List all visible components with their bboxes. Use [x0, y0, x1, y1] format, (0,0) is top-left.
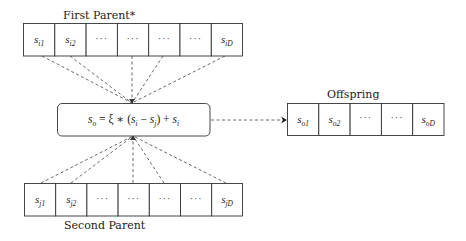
- connector-line: [41, 136, 133, 183]
- ellipsis: ···: [96, 193, 109, 204]
- connector-line: [133, 136, 164, 183]
- second-parent-label: Second Parent: [64, 219, 146, 232]
- first-parent-label: First Parent*: [63, 9, 136, 22]
- ellipsis: ···: [158, 33, 171, 44]
- ellipsis: ···: [189, 33, 202, 44]
- ellipsis: ···: [95, 33, 108, 44]
- arrowhead-icon: [281, 117, 287, 124]
- arrowhead-icon: [129, 99, 135, 104]
- ellipsis: ···: [391, 112, 404, 123]
- ellipsis: ···: [359, 112, 372, 123]
- ellipsis: ···: [158, 193, 171, 204]
- ellipsis: ···: [190, 193, 203, 204]
- offspring-vector: so1 so2 ··· ··· soD: [288, 104, 445, 136]
- second-parent-connectors: [41, 136, 226, 184]
- connector-line: [132, 56, 225, 103]
- connector-line: [132, 56, 163, 103]
- second-parent-vector: sj1 sj2 ··· ··· ··· ··· sjD: [25, 184, 243, 217]
- operator-to-offspring-arrow: [211, 117, 287, 124]
- de-crossover-diagram: First Parent* Second Parent Offspring si…: [0, 0, 466, 241]
- ellipsis: ···: [127, 33, 140, 44]
- connector-line: [70, 56, 132, 103]
- connector-line: [71, 136, 133, 183]
- ellipsis: ···: [127, 193, 140, 204]
- first-parent-connectors: [42, 56, 225, 104]
- offspring-label: Offspring: [327, 88, 379, 101]
- crossover-operator: so = ξ ∗ (si − sj) + si: [58, 104, 211, 137]
- connector-line: [133, 136, 226, 183]
- connector-line: [42, 56, 132, 103]
- first-parent-vector: si1 si2 ··· ··· ··· ··· siD: [24, 24, 243, 57]
